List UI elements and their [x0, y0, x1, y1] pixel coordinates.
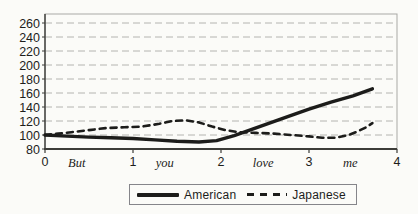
- japanese-dashed-line-sample: [247, 193, 287, 196]
- y-axis-ticks: 80100120140160180200220240260: [19, 17, 45, 157]
- y-tick-label: 80: [26, 143, 40, 157]
- gridlines: [45, 23, 397, 135]
- x-word-label: But: [68, 156, 86, 170]
- x-word-labels: Butyouloveme: [68, 156, 358, 170]
- x-word-label: you: [154, 156, 174, 170]
- y-tick-label: 100: [19, 129, 40, 143]
- legend-label-american: American: [184, 188, 236, 202]
- y-tick-label: 140: [19, 101, 40, 115]
- y-tick-label: 180: [19, 73, 40, 87]
- x-tick-label: 0: [42, 155, 49, 169]
- y-tick-label: 160: [19, 87, 40, 101]
- chart-legend: American Japanese: [129, 184, 357, 205]
- x-tick-label: 4: [394, 155, 401, 169]
- legend-label-japanese: Japanese: [292, 188, 346, 202]
- y-tick-label: 120: [19, 115, 40, 129]
- x-word-label: love: [253, 156, 274, 170]
- american-solid-line-sample: [137, 193, 179, 197]
- x-tick-label: 3: [306, 155, 313, 169]
- y-tick-label: 200: [19, 59, 40, 73]
- x-word-label: me: [343, 156, 358, 170]
- y-tick-label: 260: [19, 17, 40, 31]
- pitch-contour-chart-figure: 8010012014016018020022024026001234Butyou…: [0, 0, 418, 214]
- y-tick-label: 220: [19, 45, 40, 59]
- x-tick-label: 1: [130, 155, 137, 169]
- chart-plot-area: 8010012014016018020022024026001234Butyou…: [0, 0, 418, 180]
- american-series-line: [45, 89, 372, 142]
- y-tick-label: 240: [19, 31, 40, 45]
- x-tick-label: 2: [218, 155, 225, 169]
